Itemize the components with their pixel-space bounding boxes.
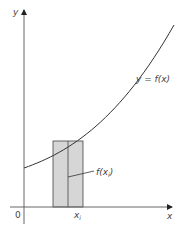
y-axis-label: y xyxy=(12,7,19,17)
curve-label: y = f(x) xyxy=(135,74,170,84)
riemann-rectangle-diagram: y x 0 y = f(x) f(xi) xi xyxy=(0,0,188,231)
function-curve xyxy=(24,25,174,168)
x-axis-label: x xyxy=(166,211,173,221)
origin-label: 0 xyxy=(15,210,21,220)
f-xi-label: f(xi) xyxy=(96,167,113,178)
xi-tick-label: xi xyxy=(73,210,81,221)
